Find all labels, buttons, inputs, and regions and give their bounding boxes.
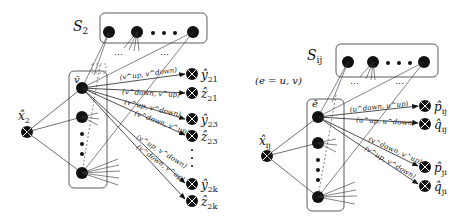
output-label-z2k: ẑ2k [200, 195, 217, 211]
output-node-z2k [186, 195, 198, 207]
output-node-qji [419, 180, 431, 192]
diagram-canvas: S2 ⋯ ⋯ v̄ x̂2 [0, 0, 467, 223]
input-label-xij: x̂ij [259, 134, 271, 150]
set-s2-label: S2 [73, 18, 88, 36]
group-e-label: ē [312, 98, 318, 109]
output-node-pij [419, 100, 431, 112]
output-label-pij: p̂ij [434, 100, 447, 116]
input-label-x2: x̂2 [18, 109, 30, 125]
output-label-y21: ŷ21 [200, 68, 218, 84]
output-node-y23 [186, 113, 198, 125]
edge-label-right-1: (u^down, u^up) [349, 100, 409, 114]
output-label-z21: ẑ21 [200, 87, 218, 103]
left-panel: S2 ⋯ ⋯ v̄ x̂2 [18, 13, 218, 211]
output-node-y21 [186, 68, 198, 80]
set-sij-label: Sij [307, 47, 322, 65]
edge-label-right-2: (u^up, u^down) [356, 116, 415, 127]
edge-definition: (e = u, v) [255, 75, 302, 86]
right-panel: Sij (e = u, v) ⋯ ⋯ ē x̂ij [255, 44, 447, 211]
output-label-y23: ŷ23 [200, 113, 218, 129]
edge-label-left-2: (v^down, v^up) [122, 88, 180, 99]
output-label-y2k: ŷ2k [200, 178, 218, 194]
output-label-pji: p̂ji [434, 161, 447, 177]
ellipsis-right-2: ⋯ [395, 79, 404, 89]
output-label-qij: q̂ij [434, 118, 447, 134]
edge-label-left-1: (v^up, v^down) [119, 66, 178, 82]
output-node-z23 [186, 130, 198, 142]
output-label-z23: ẑ23 [200, 130, 218, 146]
set-sij-nodes [342, 56, 430, 68]
output-node-y2k [186, 178, 198, 190]
ellipsis-left-2: ⋯ [160, 50, 169, 60]
output-node-pji [419, 161, 431, 173]
ellipsis-right-1: ⋯ [350, 79, 359, 89]
ellipsis-left-1: ⋯ [114, 50, 123, 60]
output-node-z21 [186, 87, 198, 99]
output-label-qji: q̂ji [434, 180, 447, 196]
output-node-qij [419, 118, 431, 130]
